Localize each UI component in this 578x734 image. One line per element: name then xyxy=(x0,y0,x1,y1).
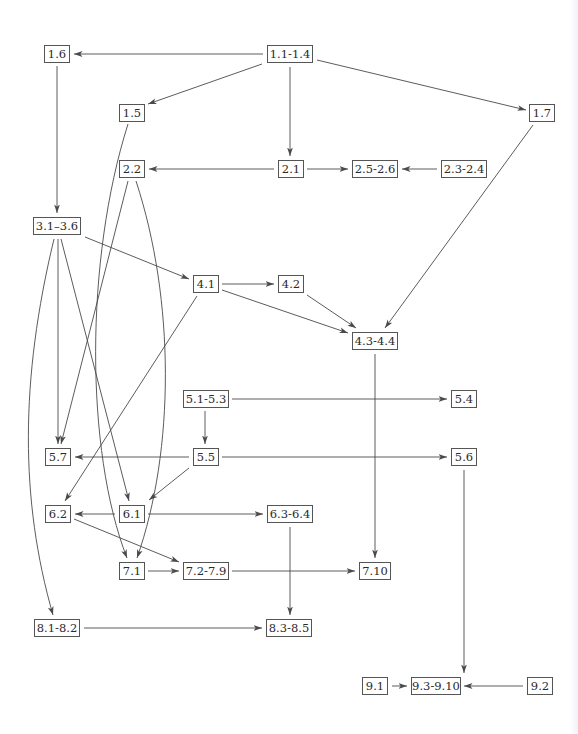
edge-5.5-to-6.1 xyxy=(149,468,189,500)
node-2.5-2.6: 2.5-2.6 xyxy=(352,160,398,178)
dependency-diagram: 1.1-1.4 1.6 1.5 1.7 2.2 2.1 2.5-2.6 2.3-… xyxy=(0,0,578,734)
edge-1.1-to-1.7 xyxy=(317,60,526,110)
node-9.3-9.10: 9.3-9.10 xyxy=(411,677,461,695)
node-6.3-6.4: 6.3-6.4 xyxy=(267,505,313,523)
node-2.2: 2.2 xyxy=(119,160,145,178)
node-7.2-7.9: 7.2-7.9 xyxy=(183,562,229,580)
node-6.2: 6.2 xyxy=(45,505,71,523)
edge-4.1-to-4.3 xyxy=(222,290,348,333)
edge-1.7-to-4.3 xyxy=(385,125,533,328)
node-8.1-8.2: 8.1-8.2 xyxy=(34,619,80,637)
edge-1.5-to-7.1 xyxy=(96,124,128,558)
node-9.2: 9.2 xyxy=(527,677,553,695)
node-5.4: 5.4 xyxy=(451,390,477,408)
node-1.1-1.4: 1.1-1.4 xyxy=(267,45,313,63)
node-4.1: 4.1 xyxy=(193,275,219,293)
node-7.10: 7.10 xyxy=(359,562,391,580)
edge-4.2-to-4.3 xyxy=(307,295,356,328)
node-5.1-5.3: 5.1-5.3 xyxy=(183,390,229,408)
node-3.1-3.6: 3.1–3.6 xyxy=(33,217,81,235)
node-7.1: 7.1 xyxy=(119,562,145,580)
node-8.3-8.5: 8.3-8.5 xyxy=(266,619,312,637)
node-4.3-4.4: 4.3-4.4 xyxy=(352,332,398,350)
node-2.3-2.4: 2.3-2.4 xyxy=(441,160,487,178)
node-5.5: 5.5 xyxy=(193,448,219,466)
edge-2.2-to-7.1 xyxy=(136,181,165,558)
node-1.7: 1.7 xyxy=(529,104,555,122)
edge-3.1-to-8.1 xyxy=(28,239,54,615)
node-2.1: 2.1 xyxy=(278,160,304,178)
node-1.5: 1.5 xyxy=(119,104,145,122)
edge-4.1-to-6.2 xyxy=(65,296,197,501)
node-5.6: 5.6 xyxy=(451,448,477,466)
node-4.2: 4.2 xyxy=(278,275,304,293)
edge-3.1-to-6.1 xyxy=(61,239,129,501)
node-5.7: 5.7 xyxy=(45,448,71,466)
node-9.1: 9.1 xyxy=(362,677,388,695)
node-1.6: 1.6 xyxy=(44,45,70,63)
edge-1.1-to-1.5 xyxy=(148,64,262,104)
node-6.1: 6.1 xyxy=(119,505,145,523)
